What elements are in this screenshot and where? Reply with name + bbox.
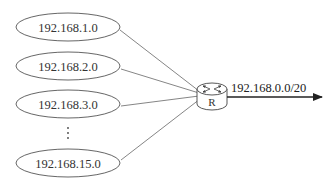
- network-node-15: 192.168.15.0: [16, 149, 120, 177]
- aggregate-route-label: 192.168.0.0/20: [231, 81, 306, 95]
- router-label: R: [208, 96, 216, 108]
- router-node: R: [197, 83, 227, 110]
- vertical-ellipsis: [67, 127, 69, 139]
- network-label: 192.168.3.0: [38, 98, 97, 112]
- network-label: 192.168.1.0: [38, 21, 97, 35]
- network-node-2: 192.168.2.0: [16, 52, 120, 80]
- link-net-1: [120, 30, 199, 91]
- network-links: [120, 30, 200, 160]
- network-node-3: 192.168.3.0: [16, 90, 120, 118]
- aggregate-route: 192.168.0.0/20: [227, 81, 322, 97]
- route-aggregation-diagram: 192.168.1.0 192.168.2.0 192.168.3.0 192.…: [0, 0, 333, 191]
- link-net-15: [121, 99, 200, 160]
- network-label: 192.168.15.0: [35, 157, 101, 171]
- ellipsis-dot: [67, 132, 69, 134]
- network-label: 192.168.2.0: [38, 60, 97, 74]
- ellipsis-dot: [67, 137, 69, 139]
- link-net-2: [121, 69, 199, 93]
- ellipsis-dot: [67, 127, 69, 129]
- link-net-3: [121, 96, 199, 106]
- network-node-1: 192.168.1.0: [16, 13, 120, 41]
